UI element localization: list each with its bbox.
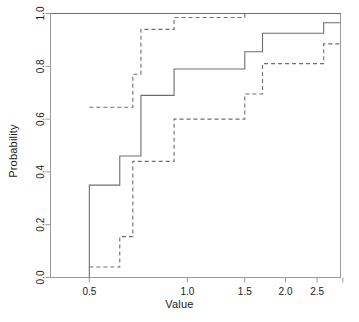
curve-upper-dashed bbox=[89, 14, 340, 108]
y-tick-label: 1.0 bbox=[35, 6, 46, 20]
y-tick-label: 0.8 bbox=[35, 59, 46, 73]
y-tick-label: 0.4 bbox=[35, 165, 46, 179]
x-tick-label: 2.5 bbox=[310, 286, 324, 297]
x-tick-label: 2.0 bbox=[279, 286, 293, 297]
curve-middle-solid bbox=[89, 23, 340, 278]
x-axis-title: Value bbox=[0, 298, 359, 310]
curve-lower-dashed bbox=[89, 44, 340, 267]
y-tick-label: 0.2 bbox=[35, 217, 46, 231]
y-tick-label: 0.0 bbox=[35, 270, 46, 284]
y-tick-label: 0.6 bbox=[35, 112, 46, 126]
x-tick-label: 0.5 bbox=[82, 286, 96, 297]
x-tick-label: 1.5 bbox=[238, 286, 252, 297]
plot-frame bbox=[51, 14, 341, 278]
y-axis-title: Probability bbox=[7, 101, 19, 201]
chart-canvas: 0.51.01.52.02.50.00.20.40.60.81.0 bbox=[0, 0, 359, 322]
x-tick-label: 1.0 bbox=[180, 286, 194, 297]
ecdf-figure: 0.51.01.52.02.50.00.20.40.60.81.0 Value … bbox=[0, 0, 359, 322]
